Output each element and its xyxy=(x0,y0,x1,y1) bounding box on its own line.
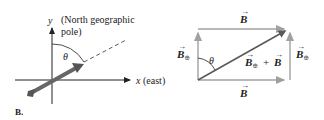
top-vector-label: → B xyxy=(240,13,247,25)
vector-arrow-icon: → xyxy=(241,7,249,16)
right-vector-label: → B⊕ xyxy=(296,48,309,62)
y-axis-note-line2: pole) xyxy=(61,26,82,37)
figure-label: B. xyxy=(15,107,23,118)
x-axis-note: (east) xyxy=(143,75,165,86)
angle-arc xyxy=(52,44,84,62)
vector-arrow-icon: → xyxy=(297,42,305,51)
earth-symbol: ⊕ xyxy=(303,54,309,62)
vector-arrow-icon: → xyxy=(246,50,254,59)
plus-sign: + xyxy=(263,56,269,68)
bottom-vector-label: → B xyxy=(240,87,247,99)
left-angle-label: θ xyxy=(63,51,68,62)
x-axis-label: x xyxy=(136,75,140,86)
vector-arrow-icon: → xyxy=(241,81,249,90)
vector-arrow-icon: → xyxy=(275,50,283,59)
vector-arrow-icon: → xyxy=(178,42,186,51)
earth-symbol: ⊕ xyxy=(252,62,258,70)
left-vector-label: → B⊕ xyxy=(177,48,190,62)
dashed-direction-line xyxy=(84,40,126,62)
right-angle-label: θ xyxy=(209,55,214,66)
earth-symbol: ⊕ xyxy=(184,54,190,62)
resultant-vector-label: → B⊕ + →B xyxy=(245,56,281,70)
left-panel xyxy=(15,28,130,104)
y-axis-label: y xyxy=(48,15,52,26)
y-axis-note-line1: (North geographic xyxy=(61,14,135,25)
